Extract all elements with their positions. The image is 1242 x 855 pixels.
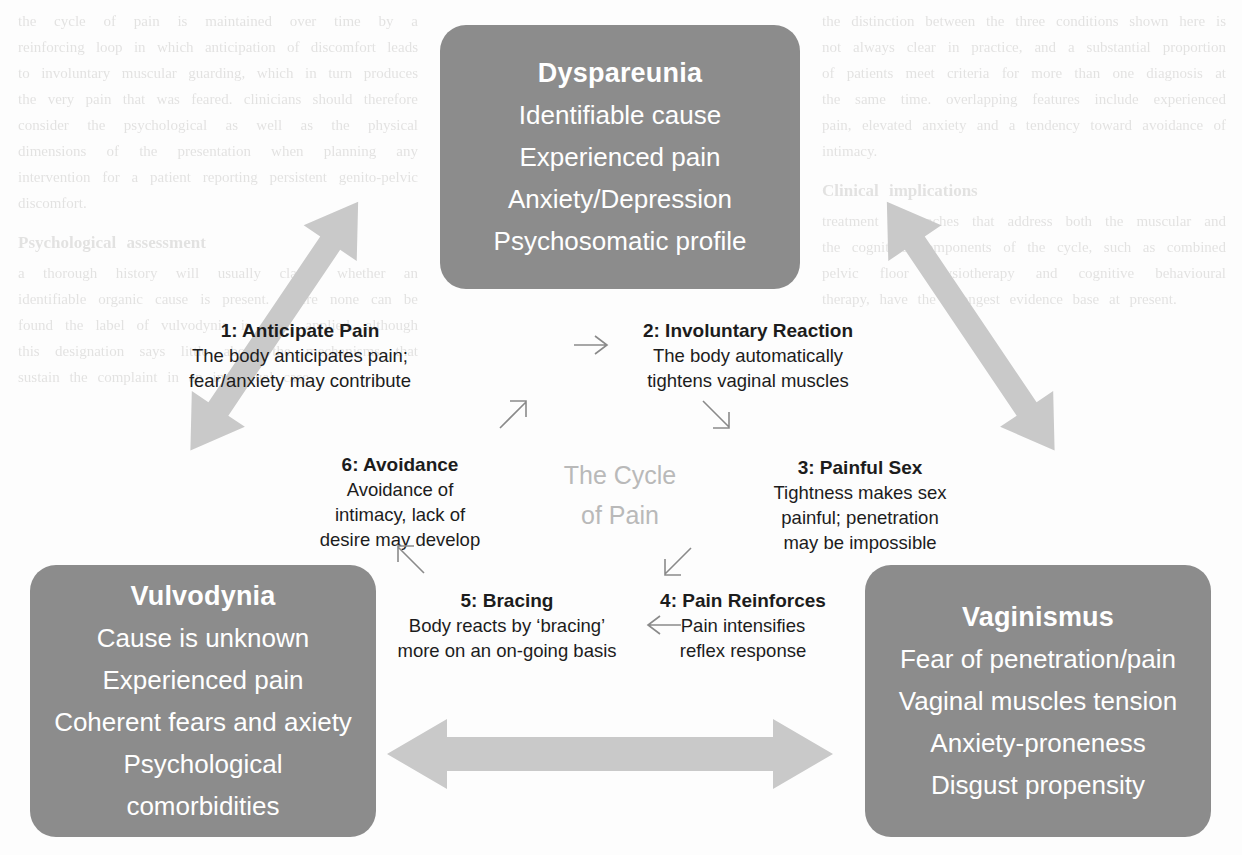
arrow-right-icon — [572, 332, 612, 358]
cycle-step-1: 1: Anticipate Pain The body anticipates … — [180, 318, 420, 393]
cycle-step-desc-line: Tightness makes sex — [755, 480, 965, 505]
concept-box-line: Psychosomatic profile — [494, 220, 747, 262]
cycle-caption-line-2: of Pain — [520, 495, 720, 535]
concept-box-line: Anxiety-proneness — [930, 722, 1145, 764]
cycle-step-desc-line: Avoidance of — [295, 477, 505, 502]
cycle-step-desc-line: more on an on-going basis — [392, 638, 622, 663]
concept-box-line: Fear of penetration/pain — [900, 638, 1176, 680]
diagram-page: the cycle of pain is maintained over tim… — [0, 0, 1242, 855]
cycle-step-desc-line: tightens vaginal muscles — [628, 368, 868, 393]
concept-box-line: Cause is unknown — [97, 617, 309, 659]
concept-box-line: Disgust propensity — [931, 764, 1145, 806]
concept-box-vaginismus[interactable]: Vaginismus Fear of penetration/pain Vagi… — [865, 565, 1211, 837]
concept-box-line: Vaginal muscles tension — [899, 680, 1177, 722]
cycle-step-desc-line: Body reacts by ‘bracing’ — [392, 613, 622, 638]
cycle-step-5: 5: Bracing Body reacts by ‘bracing’ more… — [392, 588, 622, 663]
concept-box-line: Identifiable cause — [519, 94, 721, 136]
cycle-step-title: 4: Pain Reinforces — [638, 588, 848, 613]
cycle-caption: The Cycle of Pain — [520, 455, 720, 535]
cycle-step-title: 1: Anticipate Pain — [180, 318, 420, 343]
arrow-up-right-icon — [497, 397, 531, 431]
concept-box-title: Vaginismus — [962, 596, 1114, 638]
arrow-vulvodynia-vaginismus — [385, 715, 835, 793]
concept-box-line: Psychological comorbidities — [44, 743, 362, 827]
arrow-down-left-icon — [660, 545, 694, 579]
cycle-caption-line-1: The Cycle — [520, 455, 720, 495]
concept-box-vulvodynia[interactable]: Vulvodynia Cause is unknown Experienced … — [30, 565, 376, 837]
concept-box-dyspareunia[interactable]: Dyspareunia Identifiable cause Experienc… — [440, 25, 800, 289]
cycle-step-desc-line: The body automatically — [628, 343, 868, 368]
cycle-step-2: 2: Involuntary Reaction The body automat… — [628, 318, 868, 393]
concept-box-line: Experienced pain — [103, 659, 304, 701]
cycle-step-desc-line: intimacy, lack of — [295, 502, 505, 527]
cycle-step-title: 5: Bracing — [392, 588, 622, 613]
arrow-down-right-icon — [700, 398, 734, 432]
cycle-step-desc-line: fear/anxiety may contribute — [180, 368, 420, 393]
cycle-step-desc-line: The body anticipates pain; — [180, 343, 420, 368]
concept-box-title: Vulvodynia — [130, 575, 275, 617]
arrow-up-left-icon — [393, 542, 427, 576]
cycle-step-desc-line: reflex response — [638, 638, 848, 663]
cycle-step-desc-line: may be impossible — [755, 530, 965, 555]
concept-box-line: Experienced pain — [520, 136, 721, 178]
cycle-step-desc-line: painful; penetration — [755, 505, 965, 530]
concept-box-title: Dyspareunia — [538, 52, 702, 94]
cycle-step-title: 6: Avoidance — [295, 452, 505, 477]
concept-box-line: Anxiety/Depression — [508, 178, 732, 220]
cycle-step-title: 3: Painful Sex — [755, 455, 965, 480]
cycle-step-6: 6: Avoidance Avoidance of intimacy, lack… — [295, 452, 505, 552]
concept-box-line: Coherent fears and axiety — [54, 701, 352, 743]
cycle-step-3: 3: Painful Sex Tightness makes sex painf… — [755, 455, 965, 555]
arrow-left-icon — [643, 612, 683, 638]
cycle-step-title: 2: Involuntary Reaction — [628, 318, 868, 343]
